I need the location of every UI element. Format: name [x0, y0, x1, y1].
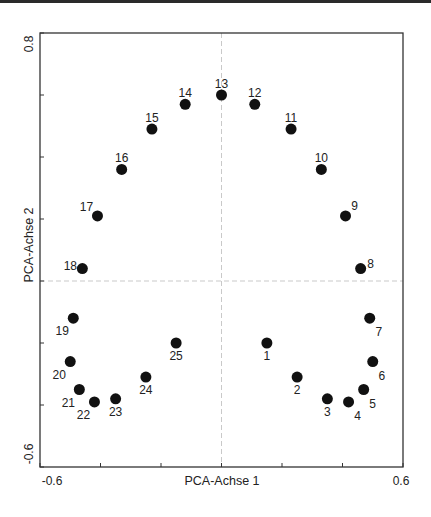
data-point: [65, 356, 76, 367]
scatter-plot: 1234567891011121314151617181920212223242…: [0, 0, 431, 517]
data-points: 1234567891011121314151617181920212223242…: [53, 77, 386, 423]
point-label: 21: [62, 396, 76, 410]
data-point: [358, 384, 369, 395]
data-point: [216, 90, 227, 101]
data-point: [92, 210, 103, 221]
point-label: 10: [315, 151, 329, 165]
point-label: 1: [264, 349, 271, 363]
data-point: [340, 210, 351, 221]
point-label: 5: [369, 397, 376, 411]
data-point: [322, 393, 333, 404]
point-label: 7: [375, 325, 382, 339]
point-label: 14: [179, 86, 193, 100]
data-point: [171, 338, 182, 349]
point-label: 11: [285, 111, 298, 125]
data-point: [355, 263, 366, 274]
point-label: 3: [324, 405, 331, 419]
point-label: 25: [169, 349, 183, 363]
point-label: 12: [248, 86, 262, 100]
y-tick-label-max: 0.8: [22, 35, 36, 52]
point-label: 20: [53, 368, 67, 382]
y-tick-label-min: -0.6: [22, 443, 36, 464]
point-label: 2: [294, 383, 301, 397]
data-point: [110, 393, 121, 404]
point-label: 16: [115, 151, 129, 165]
point-label: 9: [351, 199, 358, 213]
point-label: 23: [109, 405, 123, 419]
data-point: [89, 396, 100, 407]
data-point: [261, 338, 272, 349]
data-point: [292, 372, 303, 383]
point-label: 22: [77, 408, 91, 422]
data-point: [343, 396, 354, 407]
data-point: [249, 99, 260, 110]
data-point: [68, 313, 79, 324]
data-point: [367, 356, 378, 367]
x-tick-label-min: -0.6: [42, 474, 63, 488]
point-label: 4: [354, 409, 361, 423]
data-point: [286, 124, 297, 135]
data-point: [364, 313, 375, 324]
data-point: [77, 263, 88, 274]
x-tick-label-max: 0.6: [393, 474, 410, 488]
point-label: 13: [215, 77, 229, 91]
point-label: 19: [56, 324, 70, 338]
x-axis-title: PCA-Achse 1: [184, 474, 259, 488]
data-point: [116, 164, 127, 175]
data-point: [140, 372, 151, 383]
point-label: 18: [64, 259, 78, 273]
point-label: 24: [139, 383, 153, 397]
data-point: [146, 124, 157, 135]
point-label: 17: [80, 200, 94, 214]
point-label: 15: [145, 111, 159, 125]
data-point: [74, 384, 85, 395]
data-point: [180, 99, 191, 110]
y-axis-title: PCA-Achse 2: [22, 207, 36, 282]
point-label: 8: [367, 257, 374, 271]
data-point: [316, 164, 327, 175]
point-label: 6: [378, 369, 385, 383]
